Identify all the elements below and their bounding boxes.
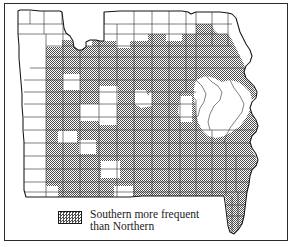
unshaded-county-1 xyxy=(99,86,118,105)
unshaded-county-4 xyxy=(63,74,80,90)
unshaded-county-3 xyxy=(99,105,117,125)
legend-label-line2: than Northern xyxy=(90,221,199,233)
figure-container: Southern more frequent than Northern xyxy=(0,0,293,247)
legend-swatch-icon xyxy=(58,211,82,224)
legend-label: Southern more frequent than Northern xyxy=(90,209,199,232)
unshaded-county-2 xyxy=(80,104,99,121)
legend-label-line1: Southern more frequent xyxy=(90,209,199,221)
shaded-region-northeast xyxy=(196,24,232,46)
map-legend: Southern more frequent than Northern xyxy=(58,209,199,232)
unshaded-county-8 xyxy=(58,131,77,143)
unshaded-county-5 xyxy=(79,140,96,154)
